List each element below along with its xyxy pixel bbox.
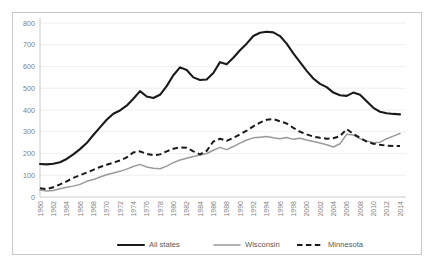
x-tick-1996: 1996	[277, 201, 284, 217]
legend-label-minnesota: Minnesota	[328, 240, 364, 249]
chart-canvas: 0100200300400500600700800 19601962196419…	[0, 0, 434, 268]
x-tick-1986: 1986	[210, 201, 217, 217]
x-tick-2012: 2012	[383, 201, 390, 217]
x-tick-1976: 1976	[143, 201, 150, 217]
x-tick-2008: 2008	[357, 201, 364, 217]
x-tick-2014: 2014	[397, 201, 404, 217]
x-tick-2004: 2004	[330, 201, 337, 217]
x-tick-1966: 1966	[77, 201, 84, 217]
x-axis-tick-labels: 1960196219641966196819701972197419761978…	[37, 201, 404, 217]
y-tick-200: 200	[23, 149, 35, 158]
y-tick-100: 100	[23, 171, 35, 180]
x-tick-1968: 1968	[90, 201, 97, 217]
x-tick-2010: 2010	[370, 201, 377, 217]
x-tick-1984: 1984	[197, 201, 204, 217]
x-tick-1982: 1982	[183, 201, 190, 217]
y-tick-0: 0	[31, 193, 35, 202]
x-tick-1998: 1998	[290, 201, 297, 217]
x-tick-1970: 1970	[103, 201, 110, 217]
series-line-wisconsin	[40, 133, 400, 190]
x-tick-1960: 1960	[37, 201, 44, 217]
gridlines	[40, 23, 406, 175]
y-tick-500: 500	[23, 84, 35, 93]
x-tick-1988: 1988	[223, 201, 230, 217]
x-tick-2000: 2000	[303, 201, 310, 217]
x-tick-1974: 1974	[130, 201, 137, 217]
x-tick-1972: 1972	[117, 201, 124, 217]
x-tick-1990: 1990	[237, 201, 244, 217]
y-tick-700: 700	[23, 40, 35, 49]
x-tick-1992: 1992	[250, 201, 257, 217]
chart-legend: All statesWisconsinMinnesota	[118, 240, 364, 249]
x-tick-1980: 1980	[170, 201, 177, 217]
x-tick-1964: 1964	[63, 201, 70, 217]
x-tick-1962: 1962	[50, 201, 57, 217]
series-line-all-states	[40, 32, 400, 165]
y-tick-300: 300	[23, 127, 35, 136]
x-tick-1994: 1994	[263, 201, 270, 217]
line-chart: 0100200300400500600700800 19601962196419…	[0, 0, 434, 268]
x-tick-2006: 2006	[343, 201, 350, 217]
x-tick-1978: 1978	[157, 201, 164, 217]
x-tick-2002: 2002	[317, 201, 324, 217]
y-tick-800: 800	[23, 19, 35, 28]
y-axis-tick-labels: 0100200300400500600700800	[23, 19, 35, 202]
y-tick-600: 600	[23, 62, 35, 71]
data-series-group	[40, 32, 400, 191]
legend-label-all-states: All states	[149, 240, 180, 249]
legend-label-wisconsin: Wisconsin	[245, 240, 280, 249]
y-tick-400: 400	[23, 106, 35, 115]
